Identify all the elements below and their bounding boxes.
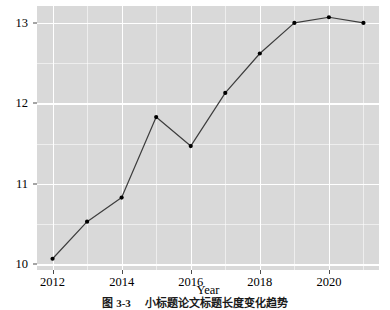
y-axis-tick-mark <box>33 264 37 265</box>
x-axis-tick-mark <box>329 270 330 274</box>
y-axis-tick-mark <box>33 103 37 104</box>
x-axis-tick-mark <box>191 270 192 274</box>
x-axis-tick-mark <box>122 270 123 274</box>
y-axis-tick-mark <box>33 183 37 184</box>
x-axis-tick-mark <box>53 270 54 274</box>
y-axis-tick-mark <box>33 22 37 23</box>
x-axis-tick-mark <box>260 270 261 274</box>
figure-caption: 图 3-3 小标题论文标题长度变化趋势 <box>0 294 390 310</box>
